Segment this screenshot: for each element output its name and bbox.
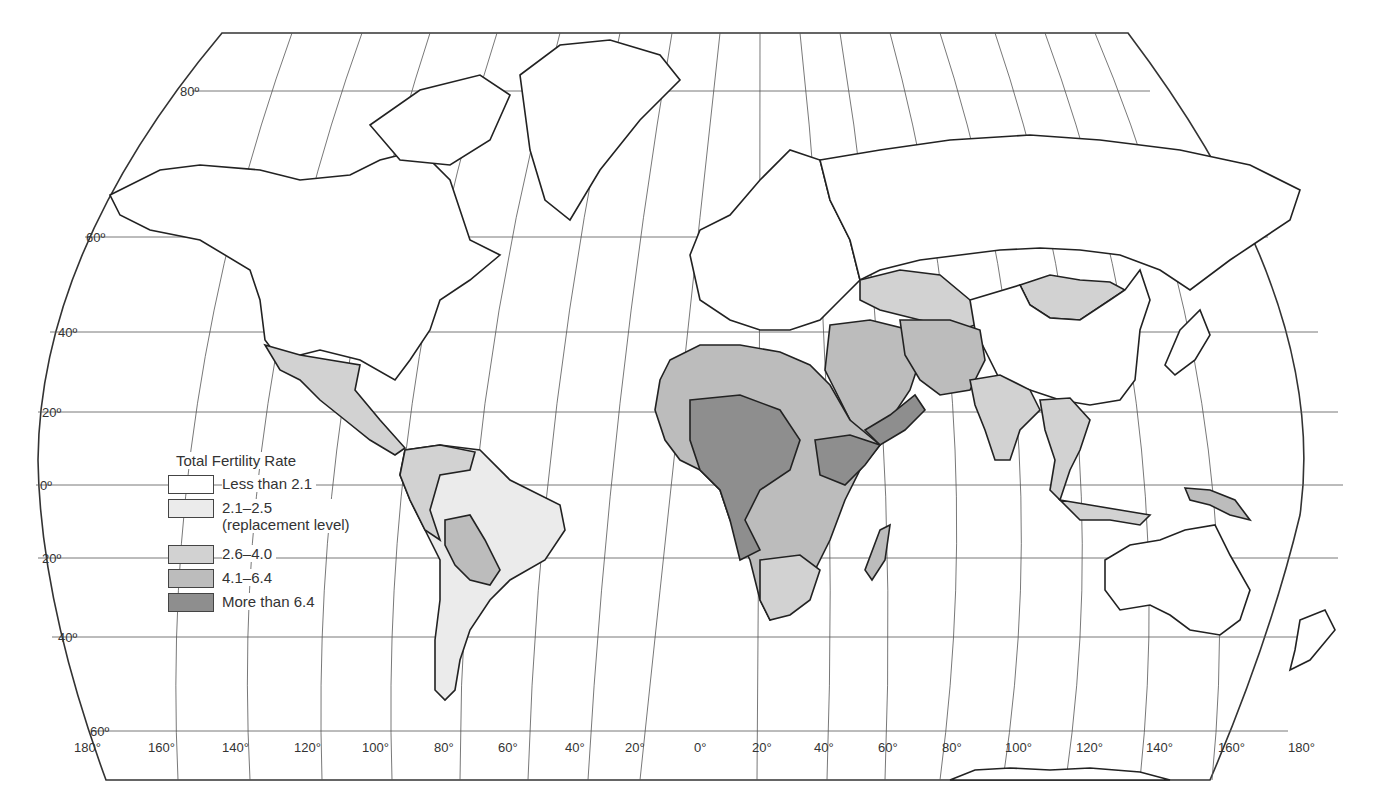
- russia: [820, 135, 1300, 290]
- indonesia: [1060, 500, 1150, 525]
- svg-text:120°: 120°: [294, 740, 321, 755]
- legend-item-more-than-6-4: More than 6.4: [168, 593, 388, 617]
- horn-of-africa: [815, 435, 880, 485]
- svg-text:40°: 40°: [565, 740, 585, 755]
- svg-text:60º: 60º: [86, 230, 105, 245]
- legend: Total Fertility Rate Less than 2.1 2.1–2…: [168, 452, 388, 617]
- legend-item-2-6-4-0: 2.6–4.0: [168, 545, 388, 569]
- papua-new-guinea: [1185, 488, 1250, 520]
- svg-text:180°: 180°: [74, 740, 101, 755]
- svg-text:60°: 60°: [878, 740, 898, 755]
- svg-text:100°: 100°: [362, 740, 389, 755]
- legend-swatch: [168, 569, 214, 588]
- svg-text:0°: 0°: [694, 740, 706, 755]
- legend-label-sub: (replacement level): [222, 516, 350, 533]
- madagascar: [865, 525, 890, 580]
- land-masses: [110, 40, 1335, 780]
- legend-item-less-than-2-1: Less than 2.1: [168, 475, 388, 499]
- svg-text:60º: 60º: [90, 724, 109, 739]
- svg-text:140°: 140°: [1146, 740, 1173, 755]
- legend-label: 4.1–6.4: [222, 569, 276, 586]
- svg-text:20º: 20º: [42, 405, 61, 420]
- svg-text:80º: 80º: [180, 84, 199, 99]
- svg-text:40°: 40°: [814, 740, 834, 755]
- svg-text:120°: 120°: [1076, 740, 1103, 755]
- legend-swatch: [168, 499, 214, 518]
- legend-item-2-1-2-5: 2.1–2.5 (replacement level): [168, 499, 388, 545]
- svg-text:80°: 80°: [434, 740, 454, 755]
- antarctica: [950, 768, 1170, 780]
- north-america: [110, 150, 500, 380]
- svg-text:160°: 160°: [1218, 740, 1245, 755]
- longitude-labels: 180° 160° 140° 120° 100° 80° 60° 40° 20°…: [74, 740, 1315, 755]
- svg-text:60°: 60°: [498, 740, 518, 755]
- svg-text:20°: 20°: [625, 740, 645, 755]
- legend-label-main: 2.1–2.5: [222, 499, 272, 516]
- japan: [1165, 310, 1210, 375]
- world-fertility-map: 80º 60º 40º 20º 0º 20º 40º 60º 180° 160°…: [0, 0, 1382, 807]
- svg-text:80°: 80°: [942, 740, 962, 755]
- svg-text:180°: 180°: [1288, 740, 1315, 755]
- svg-text:20º: 20º: [42, 551, 61, 566]
- svg-text:0º: 0º: [40, 478, 52, 493]
- legend-swatch: [168, 545, 214, 564]
- svg-text:40º: 40º: [58, 325, 77, 340]
- legend-label: 2.1–2.5 (replacement level): [222, 499, 354, 533]
- australia: [1105, 525, 1250, 635]
- southern-africa: [760, 555, 820, 620]
- legend-swatch: [168, 593, 214, 612]
- legend-label: 2.6–4.0: [222, 545, 276, 562]
- svg-text:100°: 100°: [1005, 740, 1032, 755]
- legend-title: Total Fertility Rate: [172, 452, 300, 469]
- legend-label: More than 6.4: [222, 593, 319, 610]
- svg-text:160°: 160°: [148, 740, 175, 755]
- new-zealand: [1290, 610, 1335, 670]
- legend-label: Less than 2.1: [222, 475, 316, 492]
- svg-text:140°: 140°: [222, 740, 249, 755]
- legend-item-4-1-6-4: 4.1–6.4: [168, 569, 388, 593]
- svg-text:40º: 40º: [58, 630, 77, 645]
- legend-swatch: [168, 475, 214, 494]
- arctic-islands: [370, 75, 510, 165]
- svg-text:20°: 20°: [752, 740, 772, 755]
